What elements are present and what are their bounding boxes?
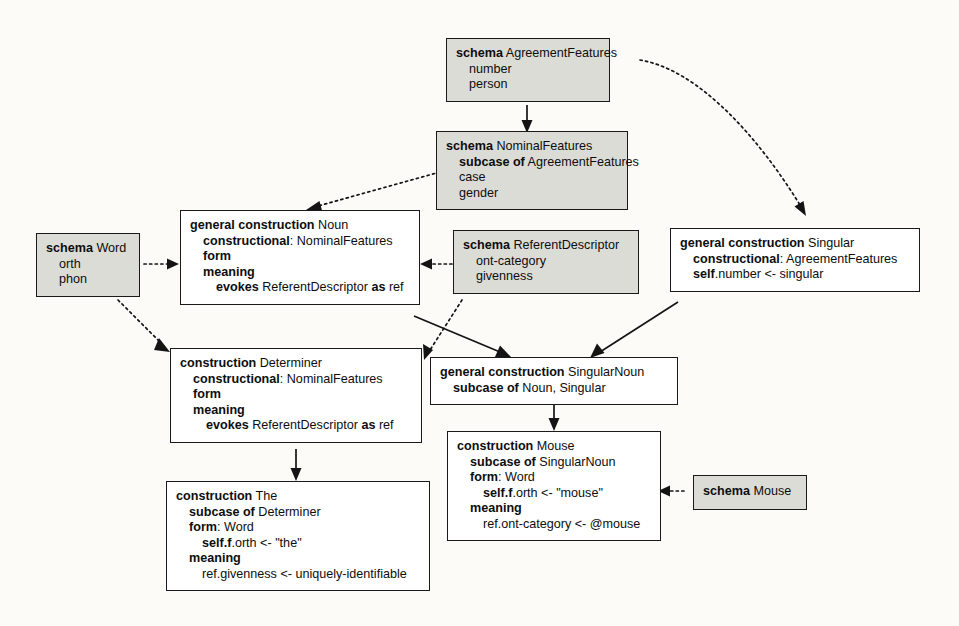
node-mouse-construction[interactable]: construction Mouse subcase of SingularNo… [447,431,661,541]
edge-determiner-the [291,449,302,481]
edge-agreementfeatures-nominalfeatures [522,105,533,133]
node-line: general construction Singular [680,236,910,252]
edge-mouseschema-mousecxn [658,486,684,497]
node-the-construction[interactable]: construction The subcase of Determiner f… [166,481,430,591]
node-line: gender [446,186,618,202]
edge-word-noun [144,259,179,270]
node-line: construction The [176,489,420,505]
node-line: form [180,387,412,403]
node-line: ref.ont-category <- @mouse [457,517,651,533]
diagram-canvas: schema AgreementFeatures number person s… [0,0,959,626]
node-determiner-construction[interactable]: construction Determiner constructional: … [170,348,422,443]
node-mouse-schema[interactable]: schema Mouse [693,475,807,510]
node-line: schema Word [46,241,130,257]
edge-agreementfeatures-singular [640,60,806,216]
node-line: form [190,249,410,265]
node-line: subcase of Determiner [176,505,420,521]
node-line: schema ReferentDescriptor [463,238,629,254]
node-line: self.number <- singular [680,267,910,283]
edge-referentdescriptor-determiner [423,300,462,360]
node-line: form: Word [457,470,651,486]
node-line: phon [46,272,130,288]
node-word-schema[interactable]: schema Word orth phon [36,233,140,297]
node-line: subcase of SingularNoun [457,455,651,471]
node-line: ont-category [463,254,629,270]
edge-noun-singularnoun [414,316,511,357]
node-agreement-features[interactable]: schema AgreementFeatures number person [446,38,610,102]
node-line: number [456,62,600,78]
node-line: construction Mouse [457,439,651,455]
node-line: case [446,170,618,186]
node-line: evokes ReferentDescriptor as ref [190,280,410,296]
node-line: schema Mouse [703,484,797,500]
node-line: self.f.orth <- "the" [176,536,420,552]
node-singular-construction[interactable]: general construction Singular constructi… [670,228,920,292]
node-line: schema AgreementFeatures [456,46,600,62]
edge-singular-singularnoun [590,302,678,358]
node-line: constructional: NominalFeatures [190,234,410,250]
node-line: meaning [457,501,651,517]
node-line: orth [46,257,130,273]
node-line: person [456,77,600,93]
edge-word-determiner [118,300,170,352]
node-line: meaning [190,265,410,281]
node-line: form: Word [176,520,420,536]
node-line: subcase of Noun, Singular [440,381,668,397]
edge-referentdescriptor-noun [420,259,452,270]
edge-nominalfeatures-noun [306,172,440,211]
node-nominal-features[interactable]: schema NominalFeatures subcase of Agreem… [436,131,628,210]
node-noun-construction[interactable]: general construction Noun constructional… [180,210,420,305]
node-line: meaning [180,403,412,419]
node-line: constructional: AgreementFeatures [680,252,910,268]
node-line: construction Determiner [180,356,412,372]
node-line: self.f.orth <- "mouse" [457,486,651,502]
node-line: schema NominalFeatures [446,139,618,155]
node-line: constructional: NominalFeatures [180,372,412,388]
node-singular-noun-construction[interactable]: general construction SingularNoun subcas… [430,357,678,405]
node-line: ref.givenness <- uniquely-identifiable [176,567,420,583]
node-line: evokes ReferentDescriptor as ref [180,418,412,434]
node-line: general construction Noun [190,218,410,234]
node-line: subcase of AgreementFeatures [446,155,618,171]
node-line: general construction SingularNoun [440,365,668,381]
node-referent-descriptor[interactable]: schema ReferentDescriptor ont-category g… [453,230,639,294]
node-line: meaning [176,551,420,567]
node-line: givenness [463,269,629,285]
